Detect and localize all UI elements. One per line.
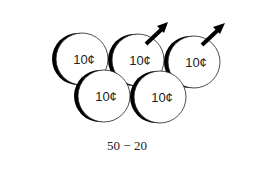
coin-label: 10¢ — [73, 52, 95, 67]
coin-label: 10¢ — [151, 90, 173, 105]
coin-bottom-left: 10¢ — [74, 70, 130, 122]
coin-label: 10¢ — [185, 55, 207, 70]
coin-label: 10¢ — [129, 53, 151, 68]
arrow-up-right-icon — [202, 23, 225, 45]
arrow-up-right-icon — [146, 22, 168, 44]
coin-subtraction-diagram: 10¢ 10¢ 10¢ 10¢ 10¢ 50 − 20 — [0, 0, 254, 173]
subtraction-expression: 50 − 20 — [0, 138, 254, 154]
coin-label: 10¢ — [95, 89, 117, 104]
coin-bottom-middle: 10¢ — [130, 71, 186, 123]
